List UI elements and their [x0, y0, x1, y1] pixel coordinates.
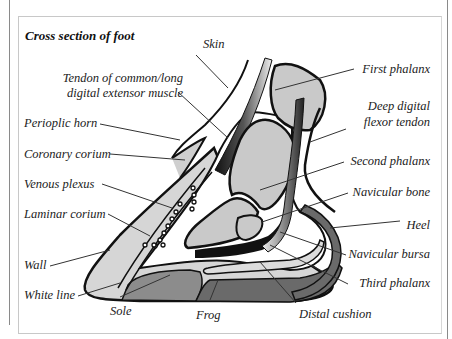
label-third-phalanx: Third phalanx: [300, 276, 430, 291]
label-deep-flexor-line1: Deep digital: [300, 99, 430, 114]
label-skin: Skin: [203, 37, 225, 52]
label-venous-plexus: Venous plexus: [24, 177, 94, 192]
label-extensor-tendon-line1: Tendon of common/long: [55, 71, 183, 86]
label-distal-cushion: Distal cushion: [299, 307, 372, 322]
label-white-line: White line: [24, 288, 75, 303]
label-first-phalanx: First phalanx: [300, 62, 430, 77]
label-heel: Heel: [300, 218, 430, 233]
label-sole: Sole: [110, 304, 132, 319]
label-coronary-corium: Coronary corium: [24, 147, 111, 162]
label-wall: Wall: [24, 258, 46, 273]
label-frog: Frog: [196, 308, 221, 323]
label-extensor-tendon-line2: digital extensor muscle: [55, 86, 183, 101]
label-navicular-bursa: Navicular bursa: [300, 247, 430, 262]
label-navicular-bone: Navicular bone: [300, 185, 430, 200]
label-perioplic-horn: Perioplic horn: [24, 116, 97, 131]
label-second-phalanx: Second phalanx: [300, 154, 430, 169]
label-laminar-corium: Laminar corium: [24, 207, 106, 222]
label-deep-flexor-line2: flexor tendon: [300, 115, 430, 130]
